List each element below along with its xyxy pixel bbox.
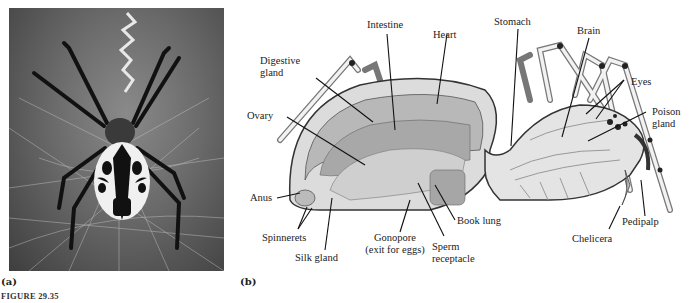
panel-a-label: (a) — [1, 276, 17, 287]
label-ovary: Ovary — [247, 110, 273, 122]
label-eyes: Eyes — [631, 76, 651, 88]
label-brain: Brain — [577, 25, 600, 37]
label-gonopore-line1: Gonopore — [360, 232, 430, 244]
label-poison-gland-line1: Poison — [652, 106, 681, 118]
label-gonopore-line2: (exit for eggs) — [360, 244, 430, 256]
label-heart: Heart — [433, 29, 456, 41]
label-chelicera: Chelicera — [572, 233, 612, 245]
label-digestive-gland-line1: Digestive — [260, 55, 300, 67]
spider-anatomy-illustration — [230, 0, 690, 290]
label-sperm-receptacle-line2: receptacle — [432, 253, 475, 265]
label-poison-gland-line2: gland — [652, 118, 675, 130]
label-sperm-receptacle-line1: Sperm — [432, 241, 459, 253]
spider-photo-illustration — [9, 8, 224, 271]
label-stomach: Stomach — [494, 16, 531, 28]
label-silk-gland: Silk gland — [295, 252, 338, 264]
label-digestive-gland-line2: gland — [260, 67, 283, 79]
label-anus: Anus — [250, 192, 272, 204]
label-pedipalp: Pedipalp — [622, 216, 659, 228]
figure-caption: FIGURE 29.35 — [1, 291, 59, 301]
label-spinnerets: Spinnerets — [262, 232, 306, 244]
label-intestine: Intestine — [367, 19, 403, 31]
label-book-lung: Book lung — [457, 215, 501, 227]
spider-photo — [9, 8, 224, 271]
spider-anatomy-diagram: Intestine Heart Stomach Brain Digestive … — [230, 0, 690, 290]
